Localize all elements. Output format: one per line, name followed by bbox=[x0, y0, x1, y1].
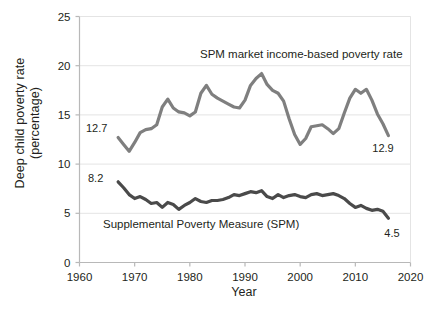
x-tick-label-1980: 1980 bbox=[177, 271, 203, 283]
upper-series-label: SPM market income-based poverty rate bbox=[200, 48, 403, 60]
y-tick-label-0: 0 bbox=[64, 257, 70, 269]
upper-end-value-label: 12.9 bbox=[372, 142, 393, 154]
x-tick-label-1970: 1970 bbox=[122, 271, 148, 283]
y-tick-label-10: 10 bbox=[58, 158, 71, 170]
x-tick-labels: 1960197019801990200020102020 bbox=[67, 271, 424, 283]
gridlines bbox=[80, 17, 411, 214]
x-tick-label-2010: 2010 bbox=[343, 271, 369, 283]
y-tick-label-25: 25 bbox=[58, 11, 71, 23]
y-tick-label-5: 5 bbox=[64, 207, 70, 219]
y-tick-label-20: 20 bbox=[58, 60, 71, 72]
lower-end-value-label: 4.5 bbox=[384, 227, 399, 239]
series-line-market-income bbox=[118, 74, 388, 152]
series-lines bbox=[118, 74, 388, 219]
lower-start-value-label: 8.2 bbox=[88, 172, 103, 184]
lower-series-label: Supplemental Poverty Measure (SPM) bbox=[103, 218, 299, 230]
chart-figure: Deep child poverty rate (percentage) Yea… bbox=[0, 0, 431, 315]
upper-start-value-label: 12.7 bbox=[86, 122, 107, 134]
y-tick-label-15: 15 bbox=[58, 109, 71, 121]
x-tick-label-2020: 2020 bbox=[398, 271, 424, 283]
chart-plot-area: 0510152025 1960197019801990200020102020 … bbox=[0, 0, 431, 315]
y-tick-labels: 0510152025 bbox=[58, 11, 71, 269]
x-tick-label-1990: 1990 bbox=[232, 271, 258, 283]
x-tick-label-1960: 1960 bbox=[67, 271, 93, 283]
x-tick-label-2000: 2000 bbox=[287, 271, 313, 283]
series-line-spm bbox=[118, 182, 388, 218]
